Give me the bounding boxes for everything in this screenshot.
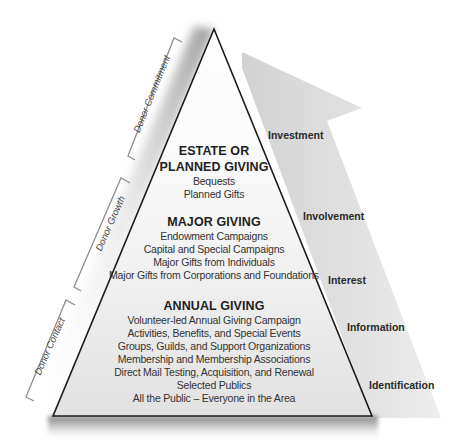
- tier-item: All the Public – Everyone in the Area: [0, 392, 428, 405]
- stage-information: Information: [347, 321, 405, 333]
- tier-item: Capital and Special Campaigns: [0, 243, 428, 256]
- tier-item: Major Gifts from Individuals: [0, 256, 428, 269]
- stage-investment: Investment: [268, 129, 323, 141]
- tier-item: Planned Gifts: [0, 188, 428, 201]
- tier-item: Endowment Campaigns: [0, 230, 428, 243]
- tier-title: PLANNED GIVING: [0, 159, 428, 175]
- tier-estate-planned-giving: ESTATE OR PLANNED GIVING Bequests Planne…: [0, 143, 428, 201]
- tier-item: Groups, Guilds, and Support Organization…: [0, 340, 428, 353]
- tier-item: Selected Publics: [0, 379, 428, 392]
- tier-item: Membership and Membership Associations: [0, 353, 428, 366]
- tier-major-giving: MAJOR GIVING Endowment Campaigns Capital…: [0, 214, 428, 282]
- stage-interest: Interest: [328, 274, 366, 286]
- stage-involvement: Involvement: [303, 210, 364, 222]
- tier-annual-giving: ANNUAL GIVING Volunteer-led Annual Givin…: [0, 298, 428, 405]
- tier-item: Bequests: [0, 175, 428, 188]
- stage-identification: Identification: [369, 379, 434, 391]
- pyramid-bottom-shadow: [48, 416, 378, 440]
- tier-title: ESTATE OR: [0, 143, 428, 159]
- tier-title: ANNUAL GIVING: [0, 298, 428, 314]
- tier-item: Direct Mail Testing, Acquisition, and Re…: [0, 366, 428, 379]
- donor-pyramid-diagram: ESTATE OR PLANNED GIVING Bequests Planne…: [0, 0, 461, 448]
